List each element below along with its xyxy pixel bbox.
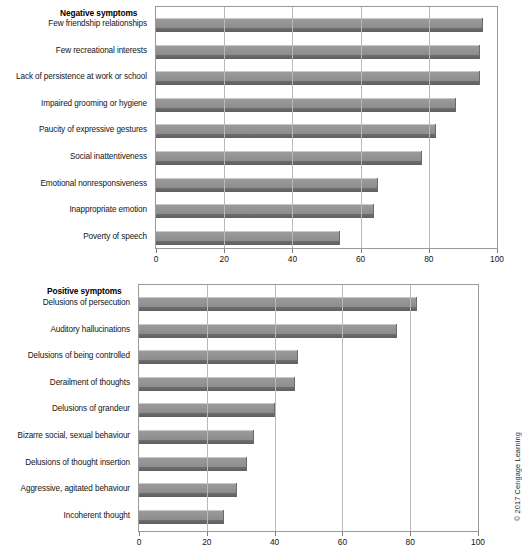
x-tick-label: 100 bbox=[490, 254, 504, 264]
bar[interactable] bbox=[139, 297, 417, 311]
bar-row[interactable] bbox=[156, 151, 497, 165]
bar-row[interactable] bbox=[139, 350, 478, 364]
category-label: Social inattentiveness bbox=[70, 152, 151, 162]
chart-positive-symptoms: Positive symptoms Delusions of persecuti… bbox=[0, 278, 514, 555]
bar-row[interactable] bbox=[139, 457, 478, 471]
bar-row[interactable] bbox=[156, 178, 497, 192]
category-label: Delusions of grandeur bbox=[52, 404, 134, 414]
category-label: Incoherent thought bbox=[64, 511, 134, 521]
x-tick-60 bbox=[361, 249, 362, 253]
bar-row[interactable] bbox=[139, 297, 478, 311]
x-tick-80 bbox=[429, 249, 430, 253]
x-tick-0 bbox=[139, 532, 140, 536]
bar[interactable] bbox=[139, 377, 295, 391]
copyright-notice: © 2017 Cengage Learning bbox=[513, 432, 522, 521]
chart-title-positive: Positive symptoms bbox=[47, 286, 122, 296]
category-label: Emotional nonresponsiveness bbox=[40, 179, 151, 189]
bar[interactable] bbox=[156, 71, 480, 85]
bar[interactable] bbox=[156, 178, 378, 192]
bar-row[interactable] bbox=[156, 18, 497, 32]
bar-row[interactable] bbox=[156, 204, 497, 218]
x-axis-positive: 020406080100 bbox=[138, 532, 479, 552]
x-tick-80 bbox=[410, 532, 411, 536]
x-tick-40 bbox=[275, 532, 276, 536]
x-tick-label: 20 bbox=[202, 537, 211, 547]
plot-area-positive bbox=[138, 284, 479, 532]
bar[interactable] bbox=[156, 204, 374, 218]
bar-row[interactable] bbox=[156, 231, 497, 245]
bar[interactable] bbox=[156, 151, 422, 165]
x-tick-label: 0 bbox=[154, 254, 159, 264]
gridline-20 bbox=[207, 285, 208, 531]
x-tick-100 bbox=[497, 249, 498, 253]
bar[interactable] bbox=[139, 483, 237, 497]
category-label: Bizarre social, sexual behaviour bbox=[18, 431, 134, 441]
bar[interactable] bbox=[139, 510, 224, 524]
x-tick-label: 40 bbox=[288, 254, 297, 264]
gridline-80 bbox=[410, 285, 411, 531]
bar-row[interactable] bbox=[139, 483, 478, 497]
category-label: Few friendship relationships bbox=[48, 19, 151, 29]
x-tick-20 bbox=[224, 249, 225, 253]
x-tick-label: 100 bbox=[471, 537, 485, 547]
bar[interactable] bbox=[156, 45, 480, 59]
category-label: Delusions of persecution bbox=[43, 298, 134, 308]
gridline-80 bbox=[429, 7, 430, 248]
bar-row[interactable] bbox=[139, 324, 478, 338]
x-tick-label: 40 bbox=[270, 537, 279, 547]
bar-series-negative bbox=[156, 7, 497, 248]
bar-row[interactable] bbox=[139, 510, 478, 524]
gridline-60 bbox=[361, 7, 362, 248]
bar-row[interactable] bbox=[156, 124, 497, 138]
bar-series-positive bbox=[139, 285, 478, 531]
category-label: Lack of persistence at work or school bbox=[16, 72, 151, 82]
bar-row[interactable] bbox=[156, 71, 497, 85]
x-tick-label: 80 bbox=[424, 254, 433, 264]
x-tick-label: 60 bbox=[356, 254, 365, 264]
gridline-20 bbox=[224, 7, 225, 248]
bar-row[interactable] bbox=[156, 98, 497, 112]
category-label: Poverty of speech bbox=[83, 232, 151, 242]
bar-row[interactable] bbox=[139, 430, 478, 444]
bar[interactable] bbox=[156, 231, 340, 245]
chart-negative-symptoms: Negative symptoms Few friendship relatio… bbox=[0, 0, 514, 272]
bar[interactable] bbox=[139, 324, 397, 338]
bar[interactable] bbox=[156, 18, 483, 32]
x-axis-negative: 020406080100 bbox=[155, 249, 498, 269]
category-label: Paucity of expressive gestures bbox=[39, 125, 151, 135]
x-tick-label: 20 bbox=[220, 254, 229, 264]
gridline-40 bbox=[275, 285, 276, 531]
category-label: Delusions of being controlled bbox=[28, 351, 134, 361]
category-label: Delusions of thought insertion bbox=[25, 458, 134, 468]
x-tick-label: 60 bbox=[338, 537, 347, 547]
x-tick-40 bbox=[292, 249, 293, 253]
bar-row[interactable] bbox=[139, 377, 478, 391]
bar-row[interactable] bbox=[156, 45, 497, 59]
category-label: Impaired grooming or hygiene bbox=[41, 99, 151, 109]
x-tick-label: 80 bbox=[406, 537, 415, 547]
bar[interactable] bbox=[156, 124, 436, 138]
bar[interactable] bbox=[139, 457, 247, 471]
category-label: Aggressive, agitated behaviour bbox=[21, 484, 134, 494]
gridline-40 bbox=[292, 7, 293, 248]
plot-area-negative bbox=[155, 6, 498, 249]
category-label: Auditory hallucinations bbox=[50, 325, 134, 335]
x-tick-100 bbox=[478, 532, 479, 536]
bar[interactable] bbox=[156, 98, 456, 112]
chart-title-negative: Negative symptoms bbox=[60, 8, 137, 18]
category-label: Derailment of thoughts bbox=[50, 378, 134, 388]
x-tick-60 bbox=[342, 532, 343, 536]
bar-row[interactable] bbox=[139, 403, 478, 417]
x-tick-label: 0 bbox=[137, 537, 142, 547]
x-tick-20 bbox=[207, 532, 208, 536]
category-label: Inappropriate emotion bbox=[69, 205, 151, 215]
x-tick-0 bbox=[156, 249, 157, 253]
gridline-60 bbox=[342, 285, 343, 531]
bar[interactable] bbox=[139, 430, 254, 444]
category-label: Few recreational interests bbox=[56, 46, 151, 56]
